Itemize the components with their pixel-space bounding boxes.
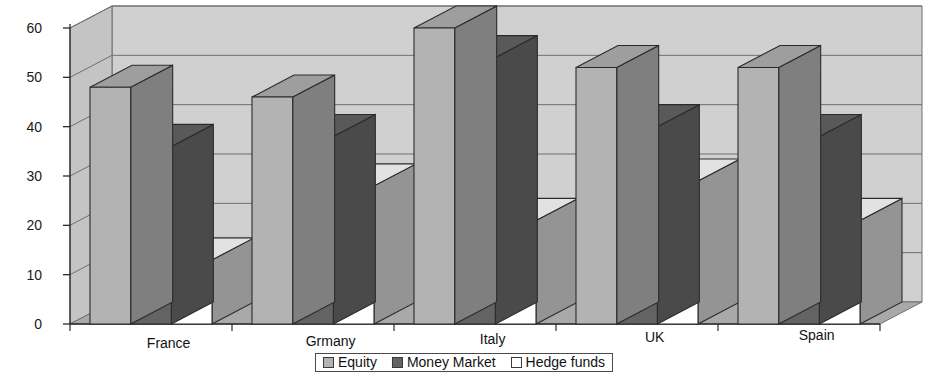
legend-label: Hedge funds [526,355,605,369]
legend-label: Money Market [407,355,496,369]
y-axis-label-10: 10 [8,268,42,282]
x-axis-label-spain: Spain [799,327,835,343]
y-axis-label-50: 50 [8,70,42,84]
y-axis-tick-labels: 6050403020100 [0,0,42,382]
chart-legend: EquityMoney MarketHedge funds [315,353,613,372]
x-axis-label-grmany: Grmany [306,333,356,349]
bar-france-equity [90,65,173,324]
legend-swatch-icon [511,357,522,368]
chart-container: 6050403020100 FranceGrmanyItalyUKSpain E… [0,0,928,382]
y-axis-label-40: 40 [8,120,42,134]
legend-swatch-icon [323,357,334,368]
x-axis-label-uk: UK [645,329,664,345]
legend-swatch-icon [392,357,403,368]
x-axis-label-france: France [147,335,191,351]
bar-chart-plot [0,0,928,382]
legend-item-money-market: Money Market [392,355,496,369]
y-axis-label-30: 30 [8,169,42,183]
y-axis-label-0: 0 [8,317,42,331]
bar-italy-equity [414,6,497,324]
y-axis-label-60: 60 [8,21,42,35]
x-axis-label-italy: Italy [480,331,506,347]
legend-item-hedge-funds: Hedge funds [511,355,605,369]
y-axis-label-20: 20 [8,218,42,232]
legend-label: Equity [338,355,377,369]
bar-spain-equity [738,45,821,324]
bar-uk-equity [576,45,659,324]
legend-item-equity: Equity [323,355,377,369]
bar-grmany-equity [252,75,335,324]
